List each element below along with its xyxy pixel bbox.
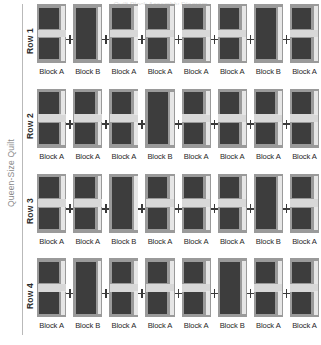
block-caption: Block A — [220, 237, 245, 246]
sash-vertical-top — [314, 91, 318, 115]
quilt-block-cell[interactable]: Block B — [218, 258, 247, 330]
quilt-block-cell[interactable]: Block A — [73, 174, 102, 246]
patch-bottom — [75, 123, 94, 144]
quilt-block-cell[interactable]: Block A — [109, 258, 138, 330]
sash-vertical-bottom — [170, 291, 174, 315]
block-caption: Block A — [39, 152, 64, 161]
quilt-block-cell[interactable]: Block A — [290, 4, 319, 76]
quilt-block-cell[interactable]: Block A — [182, 89, 211, 161]
quilt-rows-container: Row 1Block ABlock BBlock ABlock ABlock A… — [23, 0, 321, 345]
plus-icon — [102, 204, 109, 213]
quilt-block-cell[interactable]: Block A — [73, 89, 102, 161]
quilt-row: Row 1Block ABlock BBlock ABlock ABlock A… — [23, 4, 319, 89]
sash-vertical-top — [98, 91, 102, 115]
quilt-block-cell[interactable]: Block A — [37, 174, 66, 246]
quilt-block-cell[interactable]: Block A — [218, 89, 247, 161]
quilt-block-cell[interactable]: Block A — [109, 89, 138, 161]
plus-icon — [283, 120, 290, 129]
row-label-box: Row 2 — [23, 89, 37, 174]
patch-bottom — [292, 292, 311, 313]
quilt-block-cell[interactable]: Block A — [145, 4, 174, 76]
block-caption: Block B — [256, 67, 281, 76]
block-caption: Block A — [39, 67, 64, 76]
patch-bottom — [184, 292, 203, 313]
patch-tall — [112, 177, 132, 229]
block-caption: Block A — [220, 67, 245, 76]
sash-vertical-top — [61, 176, 65, 200]
quilt-block-a-icon — [37, 89, 66, 148]
row-label-box: Row 4 — [23, 258, 37, 343]
sash-vertical-top — [278, 261, 282, 285]
block-caption: Block A — [184, 152, 209, 161]
quilt-block-b-icon — [254, 4, 283, 63]
quilt-block-a-icon — [290, 89, 319, 148]
plus-icon — [175, 35, 182, 44]
quilt-block-cell[interactable]: Block A — [182, 174, 211, 246]
quilt-block-a-icon — [290, 174, 319, 233]
plus-icon — [138, 35, 145, 44]
quilt-block-a-icon — [37, 4, 66, 63]
block-caption: Block A — [292, 67, 317, 76]
quilt-block-cell[interactable]: Block B — [254, 174, 283, 246]
patch-top — [292, 92, 311, 113]
sash-vertical-top — [134, 6, 138, 30]
sash-vertical-bottom — [170, 207, 174, 231]
sash-vertical-bottom — [170, 37, 174, 61]
sash-vertical-top — [170, 6, 174, 30]
block-caption: Block A — [148, 67, 173, 76]
quilt-block-cell[interactable]: Block A — [290, 89, 319, 161]
patch-top — [184, 8, 203, 29]
quilt-block-cell[interactable]: Block A — [37, 89, 66, 161]
patch-top — [75, 177, 94, 198]
sash-vertical-top — [206, 261, 210, 285]
quilt-block-cell[interactable]: Block A — [254, 89, 283, 161]
sash-vertical-bottom — [242, 37, 246, 61]
quilt-assembly-diagram: Queen-Size Quilt Row 1Block ABlock BBloc… — [0, 0, 321, 345]
row-label: Row 3 — [25, 198, 35, 224]
quilt-block-cell[interactable]: Block A — [290, 258, 319, 330]
sash-vertical-bottom — [134, 37, 138, 61]
quilt-block-cell[interactable]: Block B — [73, 258, 102, 330]
quilt-block-cell[interactable]: Block B — [145, 89, 174, 161]
sash-vertical-bottom — [206, 207, 210, 231]
patch-top — [220, 92, 239, 113]
plus-icon — [211, 289, 218, 298]
quilt-block-a-icon — [254, 258, 283, 317]
row-blocks: Block ABlock ABlock ABlock BBlock ABlock… — [37, 89, 319, 174]
sash-vertical-top — [61, 6, 65, 30]
plus-icon — [211, 120, 218, 129]
plus-icon — [283, 289, 290, 298]
plus-icon — [247, 35, 254, 44]
quilt-block-cell[interactable]: Block A — [145, 174, 174, 246]
block-caption: Block A — [75, 237, 100, 246]
quilt-block-cell[interactable]: Block A — [145, 258, 174, 330]
plus-icon — [66, 289, 73, 298]
quilt-block-cell[interactable]: Block B — [109, 174, 138, 246]
sash-vertical-top — [314, 176, 318, 200]
quilt-block-cell[interactable]: Block A — [182, 258, 211, 330]
block-caption: Block B — [220, 321, 245, 330]
quilt-block-cell[interactable]: Block A — [218, 4, 247, 76]
plus-icon — [138, 289, 145, 298]
plus-icon — [138, 120, 145, 129]
sash-vertical-bottom — [206, 291, 210, 315]
quilt-block-cell[interactable]: Block B — [254, 4, 283, 76]
sash-vertical-top — [314, 261, 318, 285]
block-caption: Block B — [147, 152, 172, 161]
quilt-block-cell[interactable]: Block B — [73, 4, 102, 76]
quilt-block-cell[interactable]: Block A — [37, 258, 66, 330]
quilt-block-cell[interactable]: Block A — [254, 258, 283, 330]
quilt-block-cell[interactable]: Block A — [290, 174, 319, 246]
quilt-block-a-icon — [218, 89, 247, 148]
axis-label-column: Queen-Size Quilt — [0, 0, 22, 345]
quilt-block-cell[interactable]: Block A — [218, 174, 247, 246]
quilt-block-cell[interactable]: Block A — [37, 4, 66, 76]
quilt-block-a-icon — [109, 89, 138, 148]
quilt-block-cell[interactable]: Block A — [109, 4, 138, 76]
block-caption: Block A — [292, 237, 317, 246]
patch-top — [292, 177, 311, 198]
plus-icon — [211, 204, 218, 213]
patch-tall — [256, 8, 276, 60]
plus-icon — [102, 120, 109, 129]
quilt-block-cell[interactable]: Block A — [182, 4, 211, 76]
